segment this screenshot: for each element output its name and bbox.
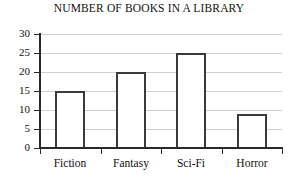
x-axis-tick bbox=[222, 149, 223, 154]
x-axis-tick-label: Horror bbox=[212, 157, 292, 170]
y-axis-tick-label: 20 bbox=[8, 66, 30, 77]
y-axis-tick bbox=[34, 110, 40, 111]
x-axis-tick bbox=[101, 149, 102, 154]
y-axis-tick-label: 0 bbox=[8, 142, 30, 153]
y-axis-tick bbox=[34, 91, 40, 92]
x-axis-tick bbox=[161, 149, 162, 154]
x-axis-tick bbox=[40, 149, 41, 154]
bar-chart: NUMBER OF BOOKS IN A LIBRARY 05101520253… bbox=[0, 0, 298, 184]
y-axis-tick bbox=[34, 129, 40, 130]
y-axis-tick-label: 25 bbox=[8, 47, 30, 58]
y-axis-tick bbox=[34, 72, 40, 73]
bar-fiction bbox=[55, 91, 85, 148]
y-axis-tick bbox=[34, 34, 40, 35]
gridline bbox=[40, 53, 282, 54]
y-axis-tick-label: 30 bbox=[8, 28, 30, 39]
plot-area bbox=[40, 34, 282, 148]
x-axis-tick bbox=[282, 149, 283, 154]
gridline bbox=[40, 34, 282, 35]
y-axis-tick-label: 15 bbox=[8, 85, 30, 96]
y-axis-tick-label: 10 bbox=[8, 104, 30, 115]
bar-sci-fi bbox=[176, 53, 206, 148]
y-axis-tick-label: 5 bbox=[8, 123, 30, 134]
bar-fantasy bbox=[116, 72, 146, 148]
bar-horror bbox=[237, 114, 267, 148]
chart-title: NUMBER OF BOOKS IN A LIBRARY bbox=[0, 2, 298, 14]
y-axis-tick bbox=[34, 53, 40, 54]
gridline bbox=[40, 72, 282, 73]
